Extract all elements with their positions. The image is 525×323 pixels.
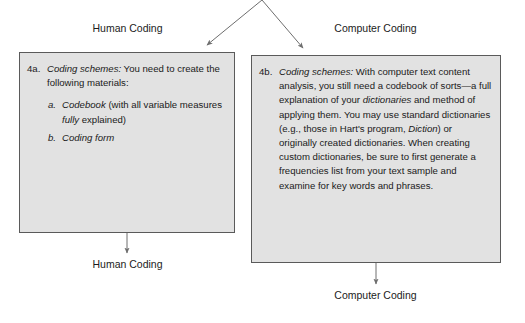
- column-label-human-top: Human Coding: [60, 22, 195, 35]
- human-coding-paragraph-text: Coding schemes: You need to create the f…: [47, 62, 226, 90]
- computer-coding-box: 4b. Coding schemes: With computer text c…: [251, 55, 501, 263]
- human-coding-subitem-a-title: Codebook: [62, 99, 106, 110]
- human-coding-subitem-a-text: Codebook (with all variable measures ful…: [62, 98, 226, 126]
- arrow-split-right: [262, 0, 303, 48]
- column-label-computer-top: Computer Coding: [308, 22, 443, 35]
- human-coding-subitem-a-marker: a.: [48, 98, 62, 112]
- human-coding-subitem-a: a. Codebook (with all variable measures …: [48, 98, 226, 126]
- computer-coding-paragraph-text: Coding schemes: With computer text conte…: [279, 65, 492, 193]
- computer-coding-paragraph: 4b. Coding schemes: With computer text c…: [259, 65, 492, 193]
- column-label-human-bottom: Human Coding: [60, 258, 195, 271]
- human-coding-subitem-b-marker: b.: [48, 131, 62, 145]
- computer-coding-box-body: 4b. Coding schemes: With computer text c…: [252, 56, 500, 201]
- human-coding-subitem-a-rest-before: (with all variable measures: [106, 99, 222, 110]
- computer-coding-emphasis-dictionaries: dictionaries: [363, 94, 412, 105]
- human-coding-box: 4a. Coding schemes: You need to create t…: [19, 52, 235, 233]
- computer-coding-heading: Coding schemes:: [279, 66, 353, 77]
- computer-coding-item-number: 4b.: [259, 65, 279, 79]
- human-coding-sublist: a. Codebook (with all variable measures …: [27, 98, 226, 145]
- flowchart-diagram: Human Coding Computer Coding 4a. Coding …: [0, 0, 525, 323]
- human-coding-heading: Coding schemes:: [47, 63, 121, 74]
- human-coding-box-body: 4a. Coding schemes: You need to create t…: [20, 53, 234, 157]
- human-coding-item-number: 4a.: [27, 62, 47, 76]
- human-coding-subitem-b-title: Coding form: [62, 132, 114, 143]
- human-coding-subitem-b-text: Coding form: [62, 131, 226, 145]
- arrow-split-left: [207, 0, 262, 45]
- human-coding-subitem-a-rest-after: explained): [79, 114, 126, 125]
- computer-coding-emphasis-diction: Diction: [408, 123, 437, 134]
- column-label-computer-bottom: Computer Coding: [308, 289, 443, 302]
- human-coding-paragraph: 4a. Coding schemes: You need to create t…: [27, 62, 226, 90]
- human-coding-subitem-b: b. Coding form: [48, 131, 226, 145]
- human-coding-subitem-a-emphasis: fully: [62, 114, 79, 125]
